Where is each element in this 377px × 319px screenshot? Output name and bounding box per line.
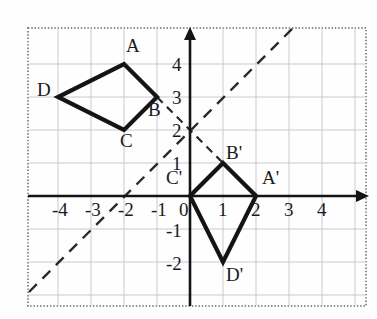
vertex-label-b: B [148,100,161,119]
y-tick-label--2: -2 [166,254,182,273]
y-tick-label-4: 4 [172,55,182,74]
y-tick-label-3: 3 [172,88,182,107]
coordinate-plane-figure: -4 -3 -2 -1 0 1 2 3 4 4 3 2 1 -1 -2 A B … [0,0,377,319]
vertex-label-a-prime: A' [262,168,279,187]
y-tick-label-2: 2 [172,121,182,140]
x-axis-arrowhead [356,190,369,202]
x-tick-label-1: 1 [218,200,228,219]
vertex-label-c-prime: C' [166,168,182,187]
x-tick-label--2: -2 [118,200,134,219]
x-tick-label--4: -4 [52,200,68,219]
x-tick-label--1: -1 [151,200,167,219]
grid-vertical-lines [58,28,355,306]
x-tick-label-0: 0 [179,200,189,219]
vertex-label-a: A [126,36,140,55]
figure-frame [28,28,366,306]
vertex-label-d-prime: D' [226,265,243,284]
x-tick-label-2: 2 [251,200,261,219]
grid-horizontal-lines [28,64,366,295]
x-tick-label--3: -3 [85,200,101,219]
y-tick-label--1: -1 [166,221,182,240]
graph-canvas [0,0,377,319]
vertex-label-b-prime: B' [226,143,242,162]
vertex-label-d: D [37,80,51,99]
vertex-label-c: C [120,131,133,150]
x-tick-label-3: 3 [284,200,294,219]
x-tick-label-4: 4 [317,200,327,219]
